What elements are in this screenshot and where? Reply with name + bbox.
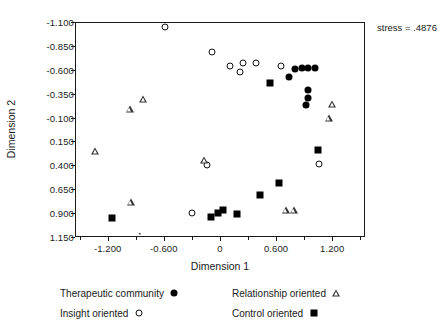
x-axis-title: Dimension 1 — [75, 260, 365, 272]
x-tick-label: -1.200 — [94, 243, 122, 254]
y-tick-label: -0.850 — [46, 40, 74, 51]
data-point — [91, 147, 99, 154]
legend-filled-circle-icon — [170, 289, 179, 298]
data-point — [315, 147, 322, 154]
legend-open-triangle-icon — [332, 289, 341, 298]
data-point — [282, 206, 290, 213]
data-point — [139, 95, 147, 102]
x-tick-label: -0.600 — [150, 243, 178, 254]
data-point — [304, 94, 311, 101]
x-tick-minor — [304, 237, 305, 240]
y-tick-label: 1.150 — [50, 232, 74, 243]
data-point — [138, 232, 141, 235]
x-tick-minor — [80, 237, 81, 240]
y-axis-title: Dimension 2 — [5, 69, 17, 189]
data-point — [219, 206, 226, 213]
data-point — [290, 206, 298, 213]
open-triangle-icon — [332, 290, 340, 297]
x-tick — [220, 237, 221, 241]
data-point — [239, 60, 246, 67]
data-point — [266, 80, 273, 87]
x-tick-label: 0.600 — [264, 243, 288, 254]
y-tick-label: 0.900 — [50, 208, 74, 219]
x-tick — [276, 237, 277, 241]
x-tick-label: 1.200 — [320, 243, 344, 254]
x-tick-minor — [360, 237, 361, 240]
x-tick-label: 0 — [217, 243, 222, 254]
data-point — [316, 160, 323, 167]
legend-entry: Control oriented — [232, 308, 390, 319]
data-point — [189, 210, 196, 217]
data-point — [161, 24, 168, 31]
y-tick-label: -1.100 — [46, 17, 74, 28]
scatter-plot-figure: -1.200-0.60000.6001.200 1.1500.9000.6500… — [0, 0, 444, 327]
x-tick — [332, 237, 333, 241]
data-point — [325, 115, 333, 122]
data-point — [126, 105, 134, 112]
data-point — [237, 68, 244, 75]
y-tick-label: 0.400 — [50, 160, 74, 171]
legend-filled-square-icon — [309, 309, 318, 318]
filled-square-icon — [310, 310, 317, 317]
stress-annotation: stress = .4876 — [377, 22, 437, 33]
data-point — [226, 63, 233, 70]
filled-circle-icon — [171, 290, 178, 297]
legend-entry-label: Insight oriented — [60, 308, 128, 319]
data-point — [252, 60, 259, 67]
legend-entry: Therapeutic community — [60, 288, 232, 299]
data-point — [109, 214, 116, 221]
legend-open-circle-icon — [134, 309, 143, 318]
data-point — [200, 157, 208, 164]
legend-entry-label: Control oriented — [232, 308, 303, 319]
data-point — [277, 63, 284, 70]
open-circle-icon — [135, 310, 142, 317]
x-tick — [164, 237, 165, 241]
data-point — [234, 210, 241, 217]
legend-entry: Insight oriented — [60, 308, 232, 319]
legend-entry-label: Therapeutic community — [60, 288, 164, 299]
data-points-layer — [76, 23, 364, 236]
data-point — [127, 199, 135, 206]
y-tick-label: -0.600 — [46, 64, 74, 75]
x-tick-minor — [248, 237, 249, 240]
data-point — [257, 192, 264, 199]
data-point — [276, 179, 283, 186]
data-point — [291, 66, 298, 73]
legend-entry: Relationship oriented — [232, 288, 390, 299]
legend-entry-label: Relationship oriented — [232, 288, 326, 299]
data-point — [285, 73, 292, 80]
y-tick-label: -0.100 — [46, 112, 74, 123]
data-point — [311, 65, 318, 72]
x-tick — [108, 237, 109, 241]
x-tick-minor — [192, 237, 193, 240]
x-tick-minor — [136, 237, 137, 240]
chart-legend: Therapeutic communityRelationship orient… — [60, 283, 390, 323]
data-point — [328, 100, 336, 107]
data-point — [209, 48, 216, 55]
y-tick-label: 0.650 — [50, 184, 74, 195]
y-tick-label: -0.350 — [46, 88, 74, 99]
y-tick-label: 0.150 — [50, 136, 74, 147]
data-point — [302, 101, 309, 108]
data-point — [305, 86, 312, 93]
plot-frame — [75, 22, 365, 237]
